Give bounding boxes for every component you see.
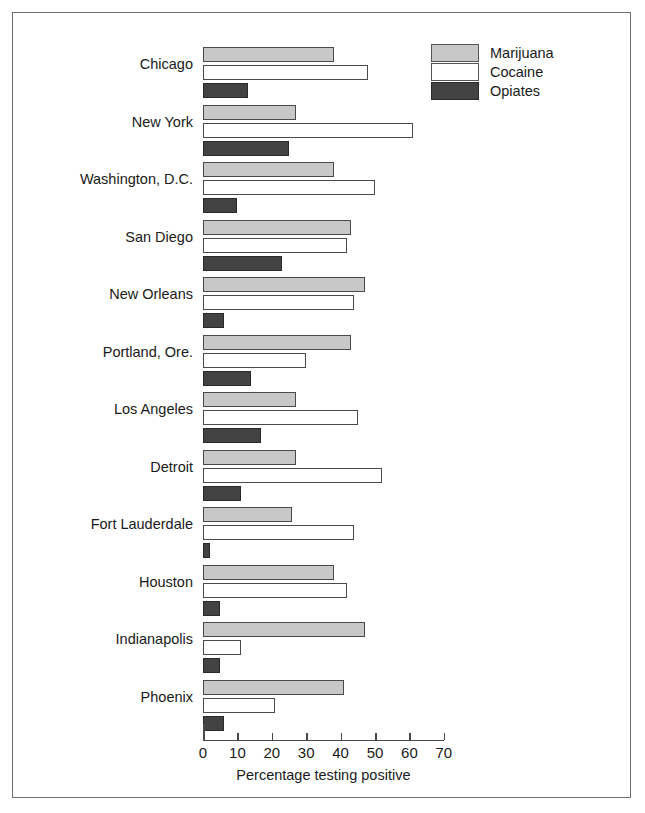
bar-cocaine xyxy=(203,583,347,598)
x-axis-tick-label: 0 xyxy=(199,744,207,761)
x-axis-tick-label: 20 xyxy=(263,744,280,761)
x-axis-tick-label: 10 xyxy=(229,744,246,761)
bar-marijuana xyxy=(203,220,351,235)
x-axis-tick-label: 70 xyxy=(435,744,452,761)
axis-left-cap xyxy=(203,724,205,740)
x-axis-tick xyxy=(272,733,274,740)
bar-opiates xyxy=(203,486,241,501)
bar-marijuana xyxy=(203,105,296,120)
x-axis-tick xyxy=(306,733,308,740)
bar-cocaine xyxy=(203,295,354,310)
bar-cocaine xyxy=(203,180,375,195)
bar-opiates xyxy=(203,658,220,673)
x-axis-tick-label: 60 xyxy=(401,744,418,761)
x-axis-tick xyxy=(375,733,377,740)
chart-plot-area: MarijuanaCocaineOpiates ChicagoNew YorkW… xyxy=(13,13,630,797)
x-axis-tick xyxy=(444,733,446,740)
bar-opiates xyxy=(203,716,224,731)
bar-marijuana xyxy=(203,450,296,465)
chart-frame: MarijuanaCocaineOpiates ChicagoNew YorkW… xyxy=(12,12,631,798)
bar-opiates xyxy=(203,543,210,558)
x-axis-tick xyxy=(409,733,411,740)
bar-cocaine xyxy=(203,468,382,483)
bar-marijuana xyxy=(203,507,292,522)
bar-opiates xyxy=(203,601,220,616)
bar-cocaine xyxy=(203,353,306,368)
bar-marijuana xyxy=(203,392,296,407)
bar-opiates xyxy=(203,313,224,328)
bar-cocaine xyxy=(203,123,413,138)
bar-cocaine xyxy=(203,698,275,713)
bar-opiates xyxy=(203,141,289,156)
bar-marijuana xyxy=(203,162,334,177)
bar-marijuana xyxy=(203,622,365,637)
bar-opiates xyxy=(203,371,251,386)
bar-cocaine xyxy=(203,525,354,540)
bar-opiates xyxy=(203,198,237,213)
x-axis-tick-label: 30 xyxy=(298,744,315,761)
bar-marijuana xyxy=(203,47,334,62)
bar-marijuana xyxy=(203,565,334,580)
bar-opiates xyxy=(203,428,261,443)
x-axis-tick-label: 50 xyxy=(367,744,384,761)
x-axis-title: Percentage testing positive xyxy=(236,767,410,783)
bar-cocaine xyxy=(203,410,358,425)
x-axis-tick xyxy=(341,733,343,740)
x-axis-tick xyxy=(237,733,239,740)
bar-opiates xyxy=(203,256,282,271)
bar-cocaine xyxy=(203,640,241,655)
bar-cocaine xyxy=(203,238,347,253)
x-axis-line xyxy=(203,740,444,742)
x-axis-tick-label: 40 xyxy=(332,744,349,761)
bar-marijuana xyxy=(203,335,351,350)
bars-container xyxy=(13,13,630,797)
bar-marijuana xyxy=(203,680,344,695)
bar-opiates xyxy=(203,83,248,98)
bar-marijuana xyxy=(203,277,365,292)
bar-cocaine xyxy=(203,65,368,80)
